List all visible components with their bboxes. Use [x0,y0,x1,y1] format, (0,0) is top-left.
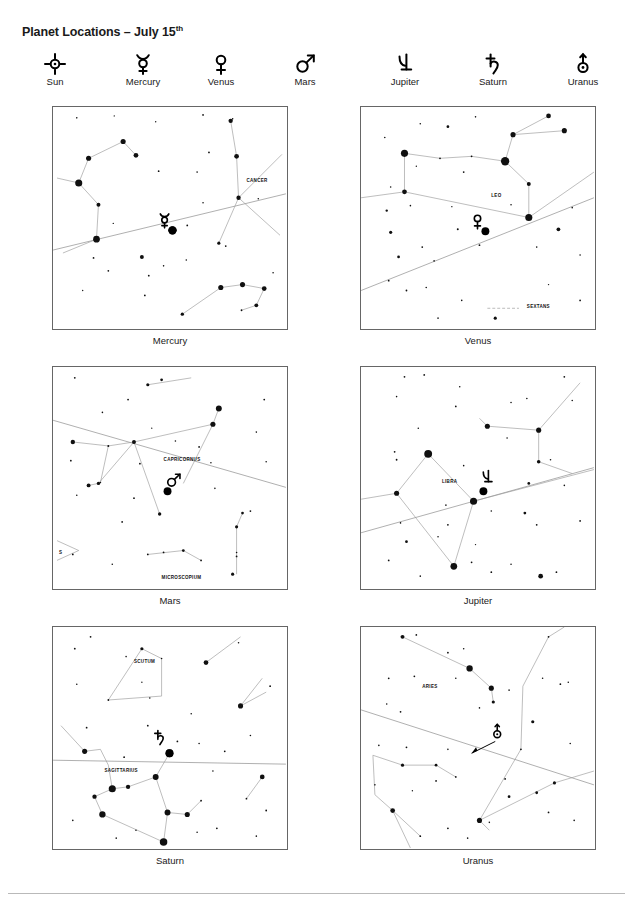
star-field-saturn: SCUTUMSAGITTARIUS [52,626,288,850]
sun-symbol [12,50,98,76]
legend-label-sun: Sun [12,76,98,88]
footer-divider [8,893,625,894]
uranus-symbol [540,50,626,76]
svg-text:CAPRICORNUS: CAPRICORNUS [164,457,201,462]
legend-label-venus: Venus [178,76,264,88]
svg-text:S: S [59,550,62,555]
legend-item-mercury: Mercury [100,50,186,88]
legend-label-jupiter: Jupiter [362,76,448,88]
legend-label-mars: Mars [262,76,348,88]
legend-item-venus: Venus [178,50,264,88]
panel-caption-mars: Mars [52,595,288,606]
panel-caption-venus: Venus [360,335,596,346]
venus-symbol [178,50,264,76]
panel-caption-uranus: Uranus [360,855,596,866]
legend-item-jupiter: Jupiter [362,50,448,88]
star-chart-panel-mars: CAPRICORNUSMICROSCOPIUMSMars [52,366,288,612]
star-chart-panel-mercury: CANCERMercury [52,106,288,352]
star-chart-panel-jupiter: LIBRAJupiter [360,366,596,612]
panel-caption-mercury: Mercury [52,335,288,346]
mars-symbol [262,50,348,76]
svg-text:LIBRA: LIBRA [442,479,458,484]
svg-text:ARIES: ARIES [422,684,437,689]
legend-label-uranus: Uranus [540,76,626,88]
page-title-ordinal: th [176,24,183,33]
star-chart-panel-saturn: SCUTUMSAGITTARIUSSaturn [52,626,288,872]
svg-text:LEO: LEO [491,193,501,198]
star-field-mars: CAPRICORNUSMICROSCOPIUMS [52,366,288,590]
star-chart-panel-venus: LEOSEXTANSVenus [360,106,596,352]
legend-label-saturn: Saturn [450,76,536,88]
jupiter-symbol [362,50,448,76]
panel-caption-jupiter: Jupiter [360,595,596,606]
legend-item-uranus: Uranus [540,50,626,88]
svg-text:SEXTANS: SEXTANS [527,304,550,309]
star-field-uranus: ARIES [360,626,596,850]
panel-caption-saturn: Saturn [52,855,288,866]
svg-text:CANCER: CANCER [246,178,268,183]
page-title-text: Planet Locations – July 15 [22,25,176,39]
star-field-mercury: CANCER [52,106,288,330]
mercury-symbol [100,50,186,76]
star-field-venus: LEOSEXTANS [360,106,596,330]
svg-text:MICROSCOPIUM: MICROSCOPIUM [162,575,202,580]
svg-text:SAGITTARIUS: SAGITTARIUS [104,768,138,773]
legend-label-mercury: Mercury [100,76,186,88]
legend-item-mars: Mars [262,50,348,88]
star-field-jupiter: LIBRA [360,366,596,590]
legend-item-saturn: Saturn [450,50,536,88]
legend-item-sun: Sun [12,50,98,88]
saturn-symbol [450,50,536,76]
svg-text:SCUTUM: SCUTUM [134,659,155,664]
planet-symbol-legend: SunMercuryVenusMarsJupiterSaturnUranus [0,50,633,98]
page-title: Planet Locations – July 15th [22,24,183,39]
star-chart-panel-uranus: ARIESUranus [360,626,596,872]
